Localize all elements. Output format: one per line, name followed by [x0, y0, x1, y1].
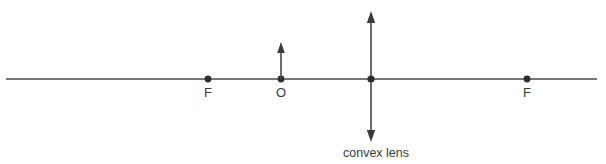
object-point-label: O: [276, 85, 286, 100]
lens-arrow-head-down: [367, 130, 375, 142]
focal-point-right-dot: [524, 76, 531, 83]
focal-point-left-label: F: [204, 85, 212, 100]
object-arrow-head-up: [277, 42, 285, 53]
convex-lens-caption: convex lens: [343, 146, 409, 160]
focal-point-right-label: F: [523, 85, 531, 100]
diagram-canvas: F O F convex lens: [0, 0, 606, 164]
lens-center-dot: [367, 75, 374, 82]
lens-arrow-head-up: [367, 11, 375, 23]
convex-lens-diagram: F O F convex lens: [0, 0, 606, 164]
focal-point-left-dot: [205, 76, 212, 83]
